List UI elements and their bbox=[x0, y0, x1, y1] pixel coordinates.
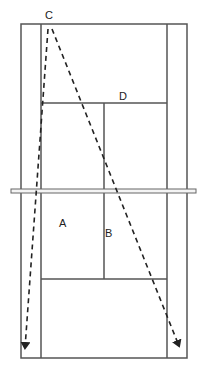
arrow-to-right-corner bbox=[52, 29, 179, 346]
label-a: A bbox=[59, 218, 66, 229]
net bbox=[11, 189, 196, 193]
label-c: C bbox=[45, 10, 53, 21]
court-diagram bbox=[0, 0, 210, 369]
label-b: B bbox=[105, 228, 112, 239]
label-d: D bbox=[119, 91, 127, 102]
